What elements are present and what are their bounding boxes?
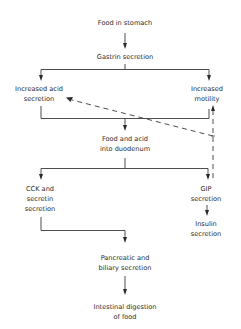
node-gip-line-2: secretion [191, 194, 221, 204]
node-pancreatic-line-2: biliary secretion [99, 263, 152, 273]
node-intestinal-digestion: Intestinal digestion of food [93, 302, 156, 322]
node-insulin-line-2: secretion [191, 229, 221, 239]
node-pancreatic-biliary-secretion: Pancreatic and biliary secretion [99, 253, 152, 273]
node-cck-secretin-secretion: CCK and secretin secretion [25, 184, 55, 214]
node-cck-line-1: CCK and [25, 184, 55, 194]
node-gastrin-label: Gastrin secretion [97, 52, 153, 62]
arrow-pancreatic-to-digestion-head [123, 289, 127, 295]
node-digestion-line-1: Intestinal digestion [93, 302, 156, 312]
arrow-gastrin-to-acid-head [39, 75, 43, 81]
node-gastrin-secretion: Gastrin secretion [97, 52, 153, 62]
node-food-in-stomach-label: Food in stomach [98, 18, 152, 28]
node-duodenum-line-1: Food and acid [100, 134, 150, 144]
dashed-to-motility-head [211, 105, 215, 111]
node-gip-line-1: GIP [191, 184, 221, 194]
node-digestion-line-2: of food [93, 312, 156, 322]
node-food-acid-duodenum: Food and acid into duodenum [100, 134, 150, 154]
node-gip-secretion: GIP secretion [191, 184, 221, 204]
arrow-duodenum-to-cck-head [39, 174, 43, 180]
node-acid-line-1: Increased acid [15, 84, 63, 94]
node-food-in-stomach: Food in stomach [98, 18, 152, 28]
node-motility-line-1: Increased [191, 84, 223, 94]
node-cck-line-2: secretin [25, 194, 55, 204]
node-motility-line-2: motility [191, 94, 223, 104]
arrow-gastrin-to-motility-head [207, 75, 211, 81]
arrow-duodenum-to-gip-head [206, 174, 210, 180]
arrow-food-to-gastrin-head [123, 43, 127, 49]
node-increased-motility: Increased motility [191, 84, 223, 104]
arrow-cck-to-pancreatic-head [123, 237, 127, 243]
node-duodenum-line-2: into duodenum [100, 144, 150, 154]
flow-connectors [0, 0, 241, 329]
node-increased-acid-secretion: Increased acid secretion [15, 84, 63, 104]
node-pancreatic-line-1: Pancreatic and [99, 253, 152, 263]
arrow-gip-to-insulin-head [205, 210, 209, 216]
node-acid-line-2: secretion [15, 94, 63, 104]
node-cck-line-3: secretion [25, 204, 55, 214]
node-insulin-line-1: Insulin [191, 219, 221, 229]
node-insulin-secretion: Insulin secretion [191, 219, 221, 239]
arrow-merge-to-duodenum-head [123, 125, 127, 131]
dashed-to-acid-head [66, 97, 73, 102]
dashed-gip-to-acid [72, 100, 213, 136]
